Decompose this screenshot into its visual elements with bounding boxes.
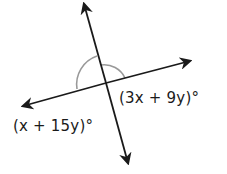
angle-arc-left (77, 56, 97, 89)
angle-label-left: (x + 15y)° (13, 117, 93, 135)
line-steep (84, 4, 106, 83)
diagram-canvas (0, 0, 227, 174)
line-shallow (106, 61, 190, 83)
angle-label-right: (3x + 9y)° (119, 89, 199, 107)
line-shallow-left (23, 83, 106, 106)
